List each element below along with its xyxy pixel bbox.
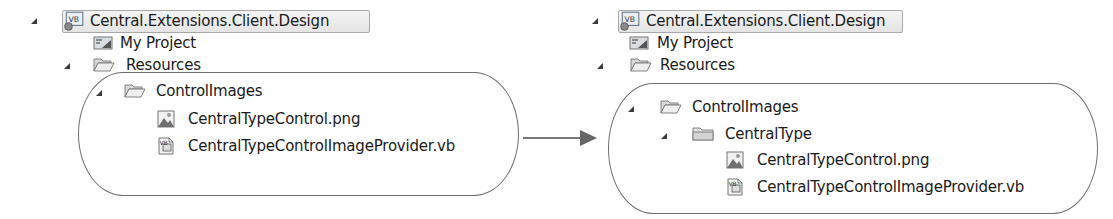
- tree-item-label: Central.Extensions.Client.Design: [646, 11, 885, 31]
- folder-open-icon: [630, 57, 652, 73]
- my-project-icon: [629, 35, 649, 51]
- tree-item-label: My Project: [657, 33, 733, 53]
- expand-collapse-icon[interactable]: [592, 18, 598, 24]
- folder-closed-icon: [692, 126, 714, 142]
- tree-item-root[interactable]: Central.Extensions.Client.Design: [619, 11, 885, 31]
- vb-file-icon: [726, 178, 744, 196]
- folder-open-icon: [660, 99, 682, 115]
- vb-project-icon: [619, 11, 641, 31]
- image-file-icon: [726, 151, 744, 169]
- tree-item-centraltype[interactable]: CentralType: [692, 124, 812, 144]
- tree-item-vb[interactable]: CentralTypeControlImageProvider.vb: [726, 177, 1024, 197]
- tree-item-label: CentralTypeControlImageProvider.vb: [757, 177, 1024, 197]
- tree-item-label: CentralType: [725, 124, 812, 144]
- tree-item-my-project[interactable]: My Project: [629, 33, 733, 53]
- tree-item-png[interactable]: CentralTypeControl.png: [726, 150, 929, 170]
- expand-collapse-icon[interactable]: [597, 63, 603, 69]
- tree-item-label: ControlImages: [692, 97, 798, 117]
- expand-collapse-icon[interactable]: [628, 106, 634, 112]
- tree-item-label: Resources: [660, 55, 735, 75]
- tree-item-controlimages[interactable]: ControlImages: [660, 97, 798, 117]
- expand-collapse-icon[interactable]: [661, 133, 667, 139]
- after-tree-panel: Central.Extensions.Client.Design My Proj…: [0, 0, 1113, 219]
- tree-item-label: CentralTypeControl.png: [757, 150, 929, 170]
- tree-item-resources[interactable]: Resources: [630, 55, 735, 75]
